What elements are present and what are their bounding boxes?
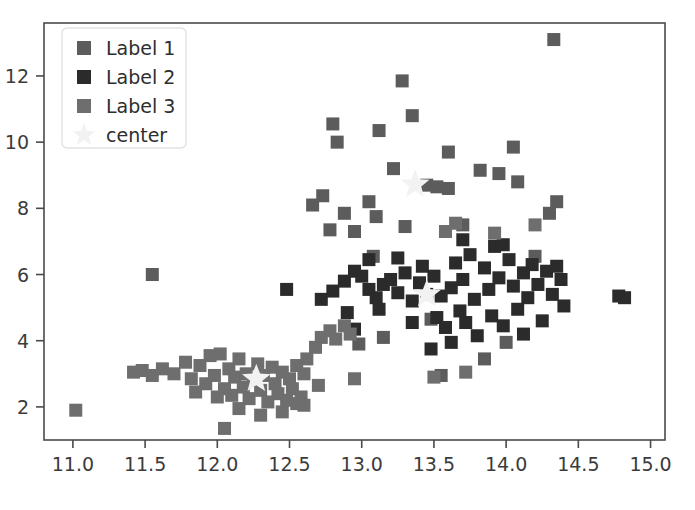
scatter-marker (478, 261, 491, 274)
scatter-marker (507, 280, 520, 293)
scatter-marker (471, 329, 484, 342)
scatter-marker (370, 291, 383, 304)
scatter-marker (179, 356, 192, 369)
scatter-marker (341, 306, 354, 319)
scatter-marker (456, 273, 469, 286)
scatter-marker (416, 260, 429, 273)
x-tick-label: 15.0 (629, 453, 671, 475)
scatter-marker (459, 366, 472, 379)
scatter-marker (232, 402, 245, 415)
scatter-marker (399, 266, 412, 279)
scatter-marker (344, 328, 357, 341)
scatter-marker (439, 225, 452, 238)
scatter-marker (290, 397, 303, 410)
y-axis-ticks: 24681012 (5, 65, 44, 418)
scatter-marker (474, 164, 487, 177)
scatter-marker (492, 167, 505, 180)
scatter-marker (482, 283, 495, 296)
scatter-marker (211, 390, 224, 403)
scatter-marker (377, 331, 390, 344)
scatter-marker (406, 316, 419, 329)
scatter-marker (373, 303, 386, 316)
x-tick-label: 14.0 (485, 453, 527, 475)
legend-label-label-1: Label 1 (106, 37, 175, 59)
scatter-marker (511, 303, 524, 316)
scatter-marker (391, 251, 404, 264)
scatter-marker (536, 314, 549, 327)
scatter-marker (488, 227, 501, 240)
legend[interactable]: Label 1Label 2Label 3center (62, 28, 186, 148)
scatter-marker (492, 271, 505, 284)
scatter-marker (529, 218, 542, 231)
scatter-marker (547, 33, 560, 46)
scatter-marker (306, 199, 319, 212)
scatter-marker (406, 109, 419, 122)
scatter-marker (399, 220, 412, 233)
scatter-marker (370, 210, 383, 223)
legend-marker-label-3 (77, 99, 91, 113)
scatter-marker (214, 347, 227, 360)
scatter-marker (500, 336, 513, 349)
scatter-marker (430, 180, 443, 193)
scatter-marker (517, 328, 530, 341)
legend-label-label-3: Label 3 (106, 95, 175, 117)
scatter-marker (348, 372, 361, 385)
scatter-marker (185, 372, 198, 385)
scatter-marker (218, 422, 231, 435)
scatter-marker (208, 369, 221, 382)
scatter-marker (511, 175, 524, 188)
x-tick-label: 14.5 (557, 453, 599, 475)
scatter-marker (453, 304, 466, 317)
scatter-marker (329, 333, 342, 346)
scatter-marker (445, 336, 458, 349)
scatter-marker (497, 238, 510, 251)
legend-label-label-2: Label 2 (106, 66, 175, 88)
plot-canvas: 11.011.512.012.513.013.514.014.515.0 246… (0, 0, 695, 510)
scatter-marker (459, 316, 472, 329)
scatter-marker (555, 273, 568, 286)
scatter-marker (338, 207, 351, 220)
scatter-marker (362, 195, 375, 208)
scatter-marker (331, 136, 344, 149)
scatter-marker (442, 146, 455, 159)
scatter-marker (521, 291, 534, 304)
x-tick-label: 12.0 (196, 453, 238, 475)
scatter-marker (406, 295, 419, 308)
scatter-marker (526, 258, 539, 271)
scatter-marker (427, 270, 440, 283)
scatter-marker (396, 74, 409, 87)
x-tick-label: 13.5 (413, 453, 455, 475)
x-tick-label: 13.0 (341, 453, 383, 475)
scatter-marker (464, 248, 477, 261)
scatter-marker (550, 195, 563, 208)
scatter-plot-figure: 11.011.512.012.513.013.514.014.515.0 246… (0, 0, 695, 510)
scatter-marker (468, 293, 481, 306)
scatter-marker (362, 253, 375, 266)
scatter-marker (546, 288, 559, 301)
scatter-marker (497, 319, 510, 332)
scatter-marker (69, 404, 82, 417)
scatter-marker (503, 253, 516, 266)
scatter-marker (348, 225, 361, 238)
legend-label-center: center (106, 124, 167, 146)
scatter-marker (276, 405, 289, 418)
scatter-marker (297, 367, 310, 380)
scatter-marker (507, 141, 520, 154)
x-tick-label: 12.5 (268, 453, 310, 475)
scatter-marker (167, 367, 180, 380)
scatter-marker (557, 299, 570, 312)
scatter-marker (189, 386, 202, 399)
scatter-marker (439, 321, 452, 334)
scatter-marker (442, 182, 455, 195)
x-tick-label: 11.5 (124, 453, 166, 475)
y-tick-label: 12 (5, 65, 29, 87)
y-tick-label: 2 (17, 396, 29, 418)
y-tick-label: 6 (17, 264, 29, 286)
scatter-marker (456, 233, 469, 246)
scatter-marker (391, 286, 404, 299)
scatter-marker (300, 352, 313, 365)
scatter-marker (373, 124, 386, 137)
scatter-marker (445, 281, 458, 294)
scatter-marker (531, 278, 544, 291)
scatter-marker (254, 409, 267, 422)
